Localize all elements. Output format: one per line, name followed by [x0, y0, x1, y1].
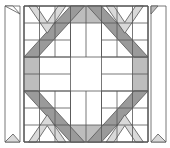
quilt-block-diagram	[0, 0, 170, 148]
left-border-strip	[5, 6, 20, 142]
right-border-strip	[151, 6, 166, 142]
